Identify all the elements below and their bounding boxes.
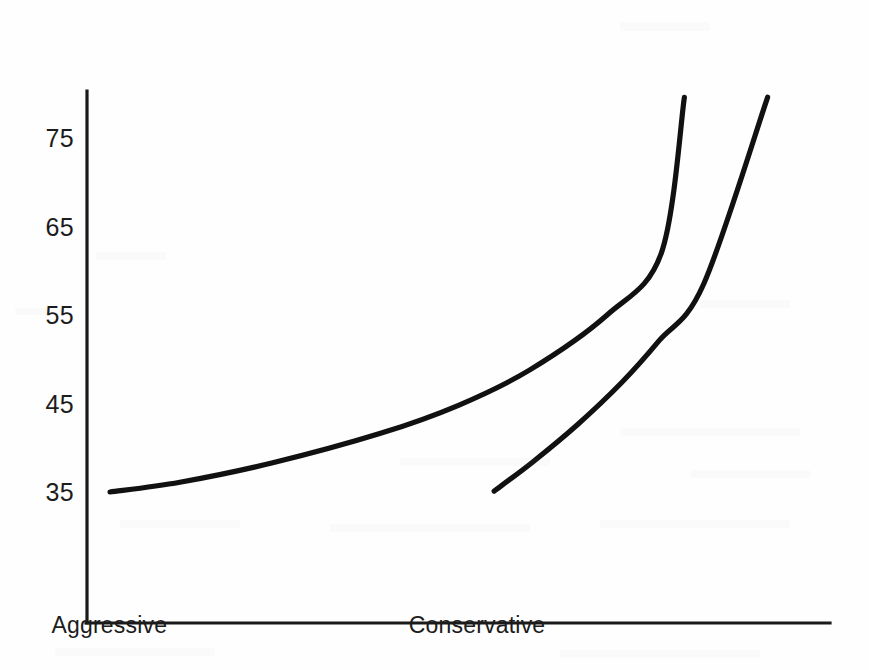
- y-tick-label-45: 45: [14, 392, 74, 417]
- series-curve-1: [110, 97, 684, 492]
- y-tick-label-55: 55: [14, 303, 74, 328]
- x-tick-label-conservative: Conservative: [372, 614, 582, 637]
- y-tick-label-75: 75: [14, 126, 74, 151]
- y-tick-label-65: 65: [14, 215, 74, 240]
- plot-area: [0, 0, 869, 670]
- y-tick-label-35: 35: [14, 480, 74, 505]
- x-tick-label-aggressive: Aggressive: [9, 614, 209, 637]
- chart-canvas: 75 65 55 45 35 Aggressive Conservative: [0, 0, 869, 670]
